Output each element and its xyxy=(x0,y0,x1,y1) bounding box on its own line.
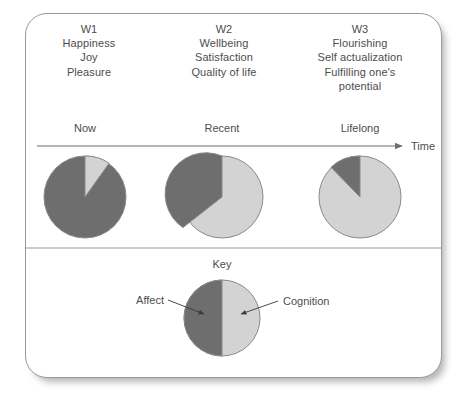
figure-root: W1 Happiness Joy Pleasure W2 Wellbeing S… xyxy=(0,0,468,402)
column-term-w2-0: Wellbeing xyxy=(165,36,283,50)
key-affect-label: Affect xyxy=(108,294,164,307)
column-term-w3-1: Self actualization xyxy=(294,50,426,64)
column-term-w1-1: Joy xyxy=(36,50,142,64)
column-term-w1-0: Happiness xyxy=(36,36,142,50)
period-label-now: Now xyxy=(45,122,125,135)
key-cognition-label: Cognition xyxy=(283,295,359,308)
column-code-w1: W1 xyxy=(36,22,142,36)
period-label-lifelong: Lifelong xyxy=(318,122,402,135)
column-term-w3-3: potential xyxy=(294,79,426,93)
key-title: Key xyxy=(182,258,262,271)
column-code-w2: W2 xyxy=(165,22,283,36)
column-term-w1-2: Pleasure xyxy=(36,65,142,79)
column-term-w3-2: Fulfilling one's xyxy=(294,65,426,79)
column-heading-w2: W2 Wellbeing Satisfaction Quality of lif… xyxy=(165,22,283,79)
column-heading-w1: W1 Happiness Joy Pleasure xyxy=(36,22,142,79)
column-term-w3-0: Flourishing xyxy=(294,36,426,50)
column-term-w2-2: Quality of life xyxy=(165,65,283,79)
column-heading-w3: W3 Flourishing Self actualization Fulfil… xyxy=(294,22,426,93)
column-term-w2-1: Satisfaction xyxy=(165,50,283,64)
time-axis-label: Time xyxy=(411,140,435,153)
period-label-recent: Recent xyxy=(182,122,262,135)
column-code-w3: W3 xyxy=(294,22,426,36)
